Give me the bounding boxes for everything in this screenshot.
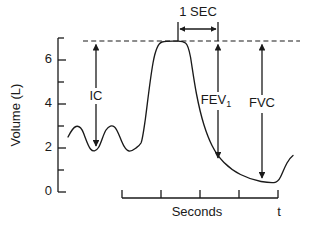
spirogram-trace <box>68 41 293 183</box>
x-axis-end-label: t <box>277 204 281 219</box>
fvc-label: FVC <box>249 95 275 110</box>
fev1-measurement: FEV1 <box>201 45 231 159</box>
ic-measurement: IC <box>90 45 103 147</box>
y-tick-label-6: 6 <box>45 51 52 66</box>
y-tick-label-0: 0 <box>45 183 52 198</box>
one-sec-measurement: 1 SEC <box>178 4 218 41</box>
spirogram-figure: 0 2 4 6 Volume (L) Seconds t IC <box>0 0 310 227</box>
x-axis-title: Seconds <box>172 204 223 219</box>
x-axis: Seconds t <box>122 190 281 219</box>
y-axis-title: Volume (L) <box>8 84 23 147</box>
y-tick-label-4: 4 <box>45 95 52 110</box>
ic-label: IC <box>90 88 103 103</box>
fev1-label-text: FEV <box>201 92 227 107</box>
fev1-label-subscript: 1 <box>226 99 231 109</box>
y-axis: 0 2 4 6 Volume (L) <box>8 38 66 198</box>
fvc-measurement: FVC <box>249 45 275 179</box>
one-sec-label: 1 SEC <box>179 4 217 19</box>
y-tick-label-2: 2 <box>45 139 52 154</box>
fev1-label: FEV1 <box>201 92 231 109</box>
spirogram-svg: 0 2 4 6 Volume (L) Seconds t IC <box>0 0 310 227</box>
